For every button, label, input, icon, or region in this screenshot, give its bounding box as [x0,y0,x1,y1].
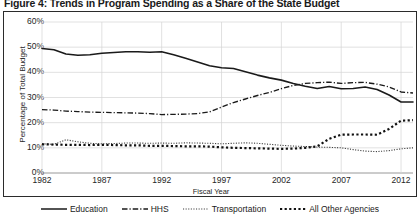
legend-label: Education [70,204,108,214]
chart-legend: EducationHHSTransportationAll Other Agen… [3,200,417,217]
figure-container: Figure 4: Trends in Program Spending as … [0,0,420,219]
legend-swatch-icon [122,205,148,213]
legend-swatch-icon [183,205,209,213]
legend-swatch-icon [280,205,306,213]
legend-item-education[interactable]: Education [41,204,108,214]
legend-item-transportation[interactable]: Transportation [183,204,267,214]
chart-plot-frame: Percentage of Total Budget 0%10%20%30%40… [3,11,417,197]
figure-title: Figure 4: Trends in Program Spending as … [4,0,418,9]
plot-area [4,12,418,198]
legend-item-all-other-agencies[interactable]: All Other Agencies [280,204,379,214]
legend-label: Transportation [212,204,267,214]
series-line-all-other-agencies [42,120,413,149]
legend-swatch-icon [41,205,67,213]
legend-item-hhs[interactable]: HHS [122,204,169,214]
legend-label: All Other Agencies [309,204,379,214]
series-line-hhs [42,82,413,114]
legend-label: HHS [151,204,169,214]
series-line-education [42,48,413,102]
